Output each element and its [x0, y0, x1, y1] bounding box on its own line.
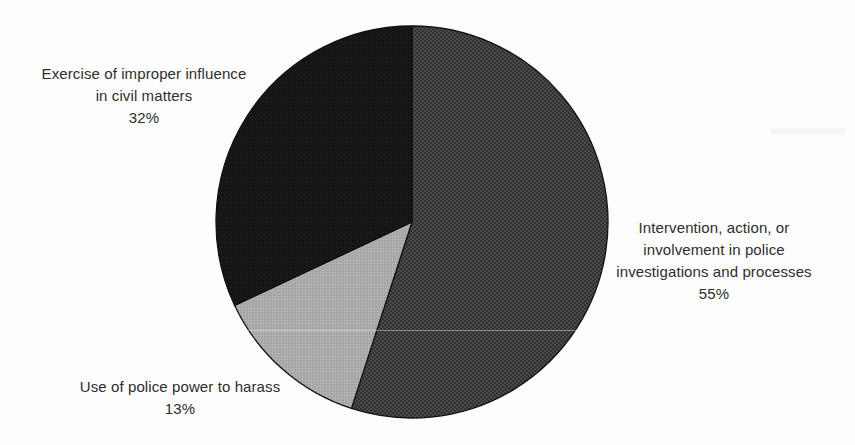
slice-label-improper-influence-civil: Exercise of improper influence in civil …	[32, 63, 256, 129]
pie-chart-figure: Intervention, action, or involvement in …	[0, 0, 855, 445]
slice-label-police-power-harass: Use of police power to harass 13%	[68, 376, 292, 420]
slice-label-police-investigations: Intervention, action, or involvement in …	[600, 217, 828, 305]
